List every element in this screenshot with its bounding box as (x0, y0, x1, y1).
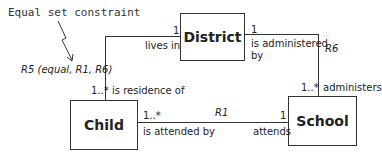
r5-child-mult: 1..* (91, 85, 109, 96)
r1-school-phrase: attends (253, 126, 291, 137)
r6-district-phrase-line2: by (251, 50, 263, 61)
entity-school[interactable]: School (288, 96, 357, 146)
r1-child-phrase: is attended by (143, 126, 215, 137)
r6-district-phrase-line1: is administered (251, 38, 328, 49)
r1-school-mult: 1 (280, 110, 286, 121)
r5-child-phrase: is residence of (112, 85, 185, 96)
r1-child-mult: 1..* (143, 110, 161, 121)
r6-name: R6 (325, 43, 338, 54)
r5-name: R5 (equal, R1, R6) (21, 64, 112, 75)
r6-district-mult: 1 (251, 24, 257, 35)
entity-child[interactable]: Child (70, 100, 138, 150)
r1-line (137, 122, 289, 123)
r5-line-horizontal (105, 36, 181, 37)
r6-school-mult: 1..* (301, 82, 319, 93)
r5-district-mult: 1 (173, 25, 179, 36)
entity-district[interactable]: District (180, 13, 245, 61)
r1-name: R1 (215, 107, 228, 118)
r5-district-phrase: lives in (145, 40, 180, 51)
r6-school-phrase: administers (323, 82, 382, 93)
